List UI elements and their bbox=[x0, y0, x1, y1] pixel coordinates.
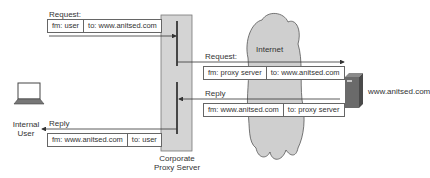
internet-cloud bbox=[247, 13, 304, 159]
proxy-reply-packet: fm: www.anitsed.com to: user bbox=[47, 133, 162, 147]
proxy-server-label-line2: Proxy Server bbox=[150, 163, 204, 172]
packet-from: fm: www.anitsed.com bbox=[48, 134, 127, 146]
packet-from: fm: user bbox=[48, 20, 83, 32]
internet-label: Internet bbox=[256, 45, 283, 54]
server-reply-packet: fm: www.anitsed.com to: proxy server bbox=[203, 103, 345, 117]
proxy-request-title: Request: bbox=[205, 52, 237, 61]
packet-to: to: www.anitsed.com bbox=[266, 67, 344, 79]
internal-user-label-line1: Internal bbox=[8, 120, 44, 129]
web-server-label: www.anitsed.com bbox=[368, 87, 430, 96]
proxy-request-packet: fm: proxy server to: www.anitsed.com bbox=[203, 66, 345, 80]
internal-user-label-line2: User bbox=[8, 129, 44, 138]
user-request-title: Request: bbox=[49, 10, 81, 19]
user-request-packet: fm: user to: www.anitsed.com bbox=[47, 19, 162, 33]
packet-to: to: proxy server bbox=[283, 104, 344, 116]
packet-from: fm: proxy server bbox=[204, 67, 266, 79]
packet-from: fm: www.anitsed.com bbox=[204, 104, 283, 116]
packet-to: to: www.anitsed.com bbox=[83, 20, 161, 32]
proxy-server-label: Corporate Proxy Server bbox=[150, 154, 204, 172]
laptop-icon bbox=[14, 83, 44, 104]
web-server-icon bbox=[345, 73, 363, 108]
proxy-server-label-line1: Corporate bbox=[150, 154, 204, 163]
internal-user-label: Internal User bbox=[8, 120, 44, 138]
server-reply-title: Reply bbox=[205, 89, 225, 98]
packet-to: to: user bbox=[127, 134, 161, 146]
proxy-reply-title: Reply bbox=[49, 119, 69, 128]
